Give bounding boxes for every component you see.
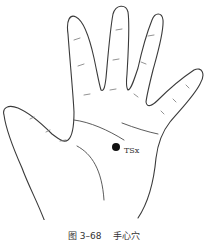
finger-joint (78, 64, 84, 66)
finger-joint (113, 59, 119, 60)
finger-joint (161, 111, 164, 114)
finger-joint (173, 99, 176, 102)
finger-joint (84, 94, 90, 95)
hand-outline (4, 6, 203, 220)
hand-illustration: TSx (0, 0, 208, 220)
finger-joint (110, 89, 116, 90)
caption-title: 手心穴 (113, 231, 140, 241)
acupoint-figure: TSx 图 3–68 手心穴 (0, 0, 208, 248)
acupoint-marker (112, 143, 120, 151)
heart-line (74, 120, 124, 140)
finger-joint (116, 29, 122, 30)
head-line (122, 123, 158, 134)
acupoint-label: TSx (124, 146, 140, 155)
caption-number: 图 3–68 (68, 231, 102, 241)
figure-caption: 图 3–68 手心穴 (0, 229, 208, 242)
life-line (77, 146, 104, 200)
finger-joint (74, 38, 80, 40)
finger-joint (148, 35, 154, 36)
finger-joint (186, 85, 189, 88)
finger-joint (141, 62, 146, 64)
finger-joint (134, 94, 138, 97)
